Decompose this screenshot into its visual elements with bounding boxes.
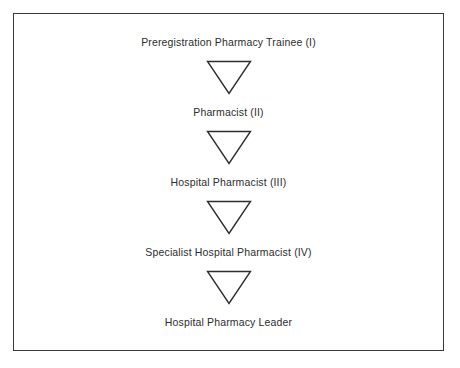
flow-connector-1 [206, 49, 252, 106]
flow-connector-3 [206, 189, 252, 246]
downward-triangle-arrow-icon [206, 270, 252, 305]
figure-border-frame: Preregistration Pharmacy Trainee (I) Pha… [13, 13, 444, 351]
career-progression-flowchart: Preregistration Pharmacy Trainee (I) Pha… [14, 14, 443, 350]
flow-stage-1-label: Preregistration Pharmacy Trainee (I) [141, 36, 316, 49]
downward-triangle-arrow-icon [206, 130, 252, 165]
downward-triangle-arrow-icon [206, 200, 252, 235]
downward-triangle-arrow-icon [206, 60, 252, 95]
flow-stage-4-label: Specialist Hospital Pharmacist (IV) [145, 246, 311, 259]
flow-connector-4 [206, 259, 252, 316]
flow-stage-5-label: Hospital Pharmacy Leader [165, 316, 292, 329]
flow-stage-2-label: Pharmacist (II) [193, 106, 264, 119]
flow-connector-2 [206, 119, 252, 176]
flow-stage-3-label: Hospital Pharmacist (III) [171, 176, 287, 189]
